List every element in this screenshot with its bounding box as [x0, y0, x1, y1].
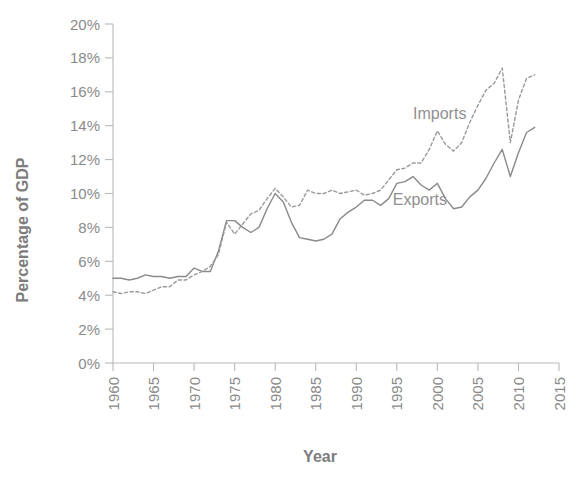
y-tick-label: 18% [70, 49, 100, 66]
series-label-exports: Exports [393, 191, 447, 208]
y-tick-label: 2% [78, 321, 100, 338]
x-tick-label: 2000 [429, 377, 446, 410]
x-tick-label: 1980 [267, 377, 284, 410]
x-tick-label: 2005 [469, 377, 486, 410]
series-annotations: ImportsExports [393, 105, 467, 208]
x-tick-label: 1960 [105, 377, 122, 410]
y-tick-label: 4% [78, 287, 100, 304]
y-axis-title: Percentage of GDP [14, 157, 31, 302]
series-line-imports [113, 68, 535, 293]
x-tick-label: 1985 [307, 377, 324, 410]
x-tick-label: 1975 [226, 377, 243, 410]
x-tick-label: 1990 [348, 377, 365, 410]
x-axis-title: Year [303, 448, 337, 465]
series-label-imports: Imports [413, 105, 466, 122]
y-tick-label: 14% [70, 117, 100, 134]
y-tick-label: 8% [78, 219, 100, 236]
x-tick-label: 1995 [388, 377, 405, 410]
x-tick-label: 1970 [186, 377, 203, 410]
x-tick-label: 2010 [510, 377, 527, 410]
x-axis-ticks: 1960196519701975198019851990199520002005… [105, 363, 568, 410]
x-tick-label: 1965 [145, 377, 162, 410]
data-series-group [113, 68, 535, 293]
y-axis-ticks: 0%2%4%6%8%10%12%14%16%18%20% [70, 16, 113, 372]
series-line-exports [113, 127, 535, 280]
x-tick-label: 2015 [551, 377, 568, 410]
y-tick-label: 0% [78, 355, 100, 372]
y-tick-label: 16% [70, 83, 100, 100]
y-tick-label: 12% [70, 151, 100, 168]
line-chart: 0%2%4%6%8%10%12%14%16%18%20% 19601965197… [0, 0, 585, 482]
y-tick-label: 20% [70, 16, 100, 33]
chart-page: 0%2%4%6%8%10%12%14%16%18%20% 19601965197… [0, 0, 585, 482]
y-tick-label: 6% [78, 253, 100, 270]
y-tick-label: 10% [70, 185, 100, 202]
